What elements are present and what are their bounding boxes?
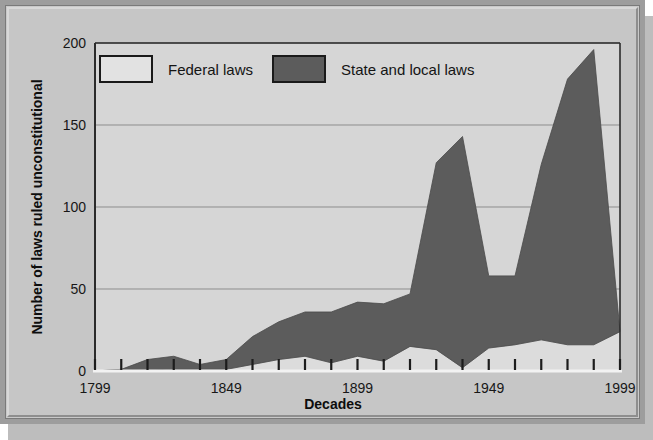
y-tick-label-150: 150 (63, 117, 87, 133)
x-tick-label-1899: 1899 (342, 380, 373, 396)
x-tick-label-1999: 1999 (604, 380, 635, 396)
x-tick-label-1849: 1849 (211, 380, 242, 396)
x-tick-label-1799: 1799 (79, 380, 110, 396)
legend-swatch-federal-laws (100, 56, 152, 82)
area-chart: 050100150200 17991849189919491999 Decade… (0, 0, 653, 440)
legend-label-state-and-local-laws: State and local laws (341, 61, 474, 78)
legend-swatch-state-and-local-laws (273, 56, 325, 82)
y-tick-label-50: 50 (70, 281, 86, 297)
chart-screenshot: 050100150200 17991849189919491999 Decade… (0, 0, 653, 440)
y-tick-label-0: 0 (78, 363, 86, 379)
y-tick-label-200: 200 (63, 35, 87, 51)
y-tick-labels: 050100150200 (63, 35, 87, 379)
y-tick-label-100: 100 (63, 199, 87, 215)
legend-label-federal-laws: Federal laws (168, 61, 253, 78)
x-tick-labels: 17991849189919491999 (79, 380, 635, 396)
x-tick-marks (95, 359, 620, 370)
chart-container: 050100150200 17991849189919491999 Decade… (0, 0, 653, 440)
x-tick-label-1949: 1949 (473, 380, 504, 396)
y-axis-title: Number of laws ruled unconstitutional (29, 79, 45, 334)
x-axis-title: Decades (304, 396, 362, 412)
